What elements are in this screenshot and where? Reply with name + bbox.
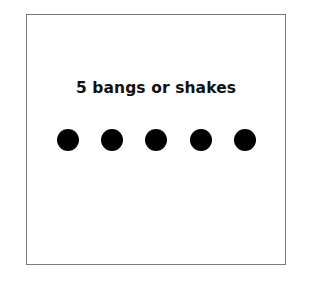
- dot-icon: [101, 129, 123, 151]
- dot-icon: [234, 129, 256, 151]
- dot-icon: [145, 129, 167, 151]
- dot-icon: [57, 129, 79, 151]
- flash-card: 5 bangs or shakes: [26, 14, 286, 265]
- dot-icon: [190, 129, 212, 151]
- card-title: 5 bangs or shakes: [27, 79, 285, 97]
